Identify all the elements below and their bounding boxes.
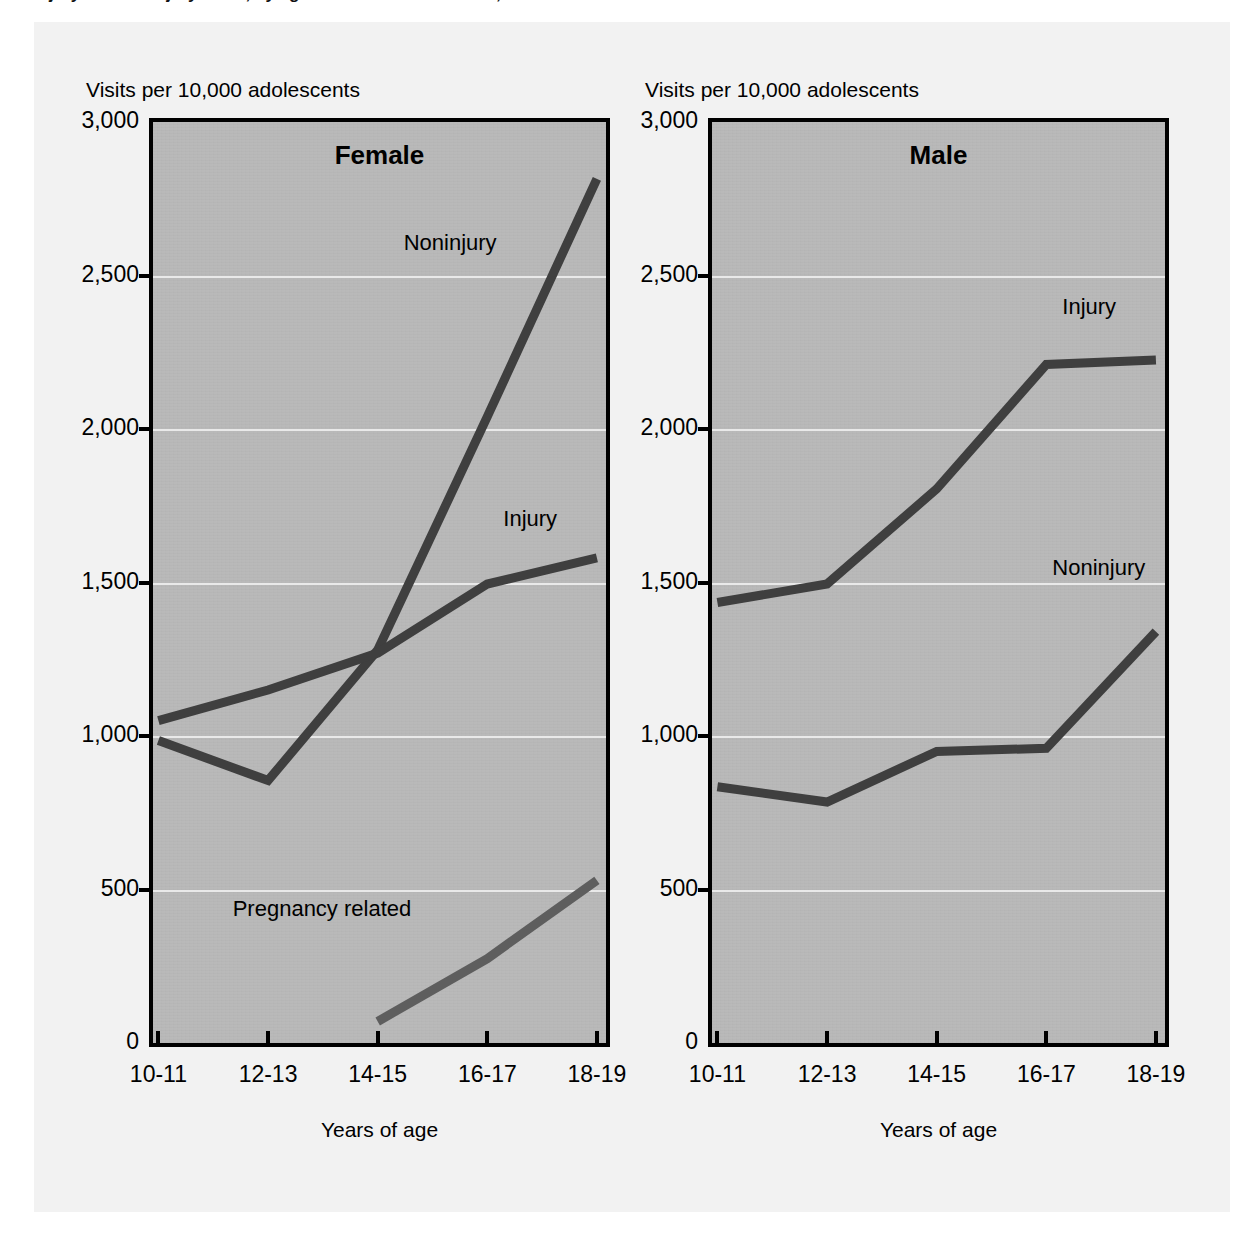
xtick-mark	[1154, 1031, 1158, 1045]
xtick-label: 16-17	[986, 1061, 1106, 1088]
xtick-mark	[715, 1031, 719, 1045]
ytick-label: 3,000	[590, 107, 698, 134]
xtick-label: 10-11	[657, 1061, 777, 1088]
series-lines-male	[712, 122, 1173, 1051]
ytick-mark	[698, 888, 712, 892]
ytick-mark	[698, 274, 712, 278]
series-line-noninjury	[717, 632, 1156, 802]
plot-area-male: Male InjuryNoninjury	[708, 118, 1169, 1047]
figure-root: Injury and nonInjury visits, by age and …	[0, 0, 1254, 1239]
xtick-label: 12-13	[767, 1061, 887, 1088]
xtick-mark	[825, 1031, 829, 1045]
ytick-label: 2,000	[590, 414, 698, 441]
series-label-injury: Injury	[1062, 294, 1116, 320]
ytick-mark	[698, 427, 712, 431]
xtick-mark	[935, 1031, 939, 1045]
yaxis-caption-male: Visits per 10,000 adolescents	[645, 78, 919, 102]
ytick-mark	[698, 734, 712, 738]
xaxis-title-male: Years of age	[708, 1118, 1169, 1142]
xtick-label: 14-15	[877, 1061, 997, 1088]
xtick-label: 18-19	[1096, 1061, 1216, 1088]
panel-male: Visits per 10,000 adolescents Male Injur…	[0, 0, 1254, 1180]
ytick-mark	[698, 581, 712, 585]
xtick-mark	[1044, 1031, 1048, 1045]
ytick-label: 0	[590, 1028, 698, 1055]
ytick-label: 1,500	[590, 568, 698, 595]
ytick-label: 500	[590, 875, 698, 902]
ytick-label: 1,000	[590, 721, 698, 748]
series-label-noninjury: Noninjury	[1052, 555, 1145, 581]
ytick-label: 2,500	[590, 261, 698, 288]
